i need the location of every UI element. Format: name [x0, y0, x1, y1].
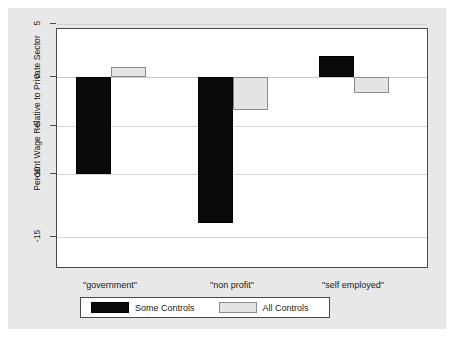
x-axis-label-government: "government" [83, 280, 137, 290]
plot-area [56, 28, 428, 268]
bar-non-profit-some-controls[interactable] [198, 77, 233, 223]
y-tick-mark-5 [50, 23, 56, 24]
bar-self-employed-all-controls[interactable] [354, 77, 389, 93]
bar-government-some-controls[interactable] [76, 77, 111, 174]
x-axis-label-self-employed: "self employed" [322, 280, 384, 290]
gridline-5 [57, 24, 427, 25]
legend-label-all-controls: All Controls [263, 303, 309, 313]
legend-swatch-all-controls [219, 302, 257, 313]
bar-self-employed-some-controls[interactable] [319, 56, 354, 77]
chart-figure: Percent Wage Relative to Private Sector … [8, 8, 446, 329]
x-axis-label-non-profit: "non profit" [210, 280, 254, 290]
y-tick-label-5: 5 [32, 13, 42, 33]
legend-swatch-some-controls [91, 302, 129, 313]
y-tick-label--10: -10 [32, 161, 42, 185]
legend-entry-all-controls[interactable]: All Controls [219, 298, 309, 317]
gridline--10 [57, 174, 427, 175]
gridline--5 [57, 126, 427, 127]
legend-label-some-controls: Some Controls [135, 303, 195, 313]
y-tick-label--15: -15 [32, 224, 42, 248]
bar-government-all-controls[interactable] [111, 67, 146, 77]
chart-legend: Some Controls All Controls [80, 297, 330, 318]
bar-non-profit-all-controls[interactable] [233, 77, 268, 110]
y-tick-label--5: -5 [32, 115, 42, 135]
legend-entry-some-controls[interactable]: Some Controls [91, 298, 195, 317]
gridline--15 [57, 237, 427, 238]
y-tick-label-0: 0 [32, 66, 42, 86]
